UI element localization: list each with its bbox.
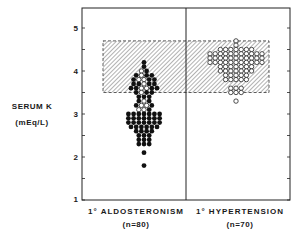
y-tick-2: 2 — [68, 153, 78, 162]
x-label-hypertension-n: (n=70) — [190, 220, 290, 229]
y-axis-units: (mEq/L) — [2, 118, 62, 127]
x-label-aldosteronism: 1° ALDOSTERONISM — [84, 207, 188, 216]
y-tick-5: 5 — [68, 24, 78, 33]
y-tick-4: 4 — [68, 67, 78, 76]
y-tick-3: 3 — [68, 110, 78, 119]
y-tick-1: 1 — [68, 195, 78, 204]
x-label-aldosteronism-n: (n=80) — [84, 220, 188, 229]
plot-frame — [82, 8, 290, 200]
y-axis-title: SERUM K — [2, 102, 62, 111]
x-label-hypertension: 1° HYPERTENSION — [190, 207, 290, 216]
